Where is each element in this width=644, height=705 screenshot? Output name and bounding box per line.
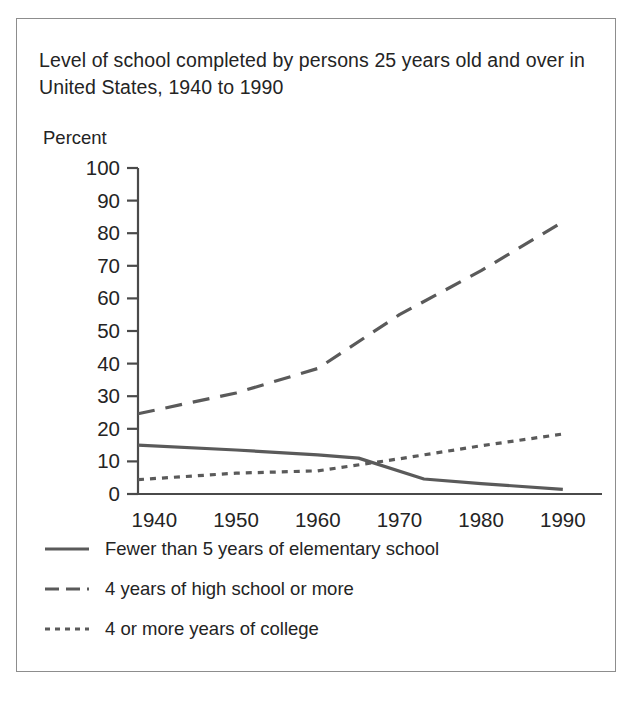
svg-text:100: 100	[86, 156, 120, 179]
svg-text:1960: 1960	[295, 508, 341, 531]
svg-text:1940: 1940	[132, 508, 178, 531]
figure-card: Level of school completed by persons 25 …	[16, 18, 616, 672]
svg-text:1950: 1950	[213, 508, 259, 531]
svg-text:10: 10	[97, 449, 120, 472]
legend-label-highschool: 4 years of high school or more	[105, 578, 354, 600]
line-chart-svg: 0102030405060708090100194019501960197019…	[17, 19, 617, 539]
legend-label-elementary: Fewer than 5 years of elementary school	[105, 538, 439, 560]
caption-sliver	[16, 686, 626, 705]
svg-text:90: 90	[97, 189, 120, 212]
svg-text:30: 30	[97, 384, 120, 407]
svg-text:20: 20	[97, 417, 120, 440]
svg-text:40: 40	[97, 352, 120, 375]
legend-item-elementary: Fewer than 5 years of elementary school	[43, 529, 593, 569]
svg-text:60: 60	[97, 286, 120, 309]
svg-text:0: 0	[109, 482, 120, 505]
svg-text:1990: 1990	[540, 508, 586, 531]
dashed-line-icon	[43, 582, 105, 596]
solid-line-icon	[43, 542, 105, 556]
legend-item-college: 4 or more years of college	[43, 609, 593, 649]
legend-item-highschool: 4 years of high school or more	[43, 569, 593, 609]
svg-text:1970: 1970	[377, 508, 423, 531]
svg-text:80: 80	[97, 221, 120, 244]
dotted-line-icon	[43, 622, 105, 636]
svg-text:70: 70	[97, 254, 120, 277]
chart-legend: Fewer than 5 years of elementary school …	[43, 529, 593, 649]
svg-text:1980: 1980	[458, 508, 504, 531]
svg-text:50: 50	[97, 319, 120, 342]
legend-label-college: 4 or more years of college	[105, 618, 319, 640]
plot-area: 0102030405060708090100194019501960197019…	[17, 19, 617, 539]
